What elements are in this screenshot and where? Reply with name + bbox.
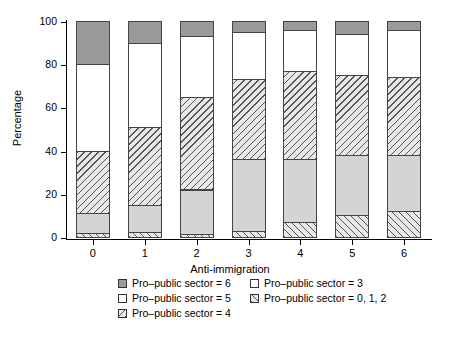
- legend-row: Pro–public sector = 4: [118, 306, 378, 321]
- legend-item[interactable]: Pro–public sector = 0, 1, 2: [250, 293, 378, 304]
- bar-segment: [232, 159, 266, 231]
- bar-1: [128, 22, 162, 238]
- bar-segment: [335, 34, 369, 76]
- bar-segment: [76, 64, 110, 151]
- bar-segment: [232, 21, 266, 33]
- bar-segment: [180, 21, 214, 37]
- bar-segment: [180, 36, 214, 97]
- x-axis-tick-label: 2: [182, 247, 212, 259]
- chart-legend: Pro–public sector = 6Pro–public sector =…: [118, 276, 378, 321]
- bar-segment: [76, 213, 110, 233]
- bars-layer: [67, 22, 430, 238]
- legend-swatch-icon: [118, 279, 127, 288]
- bar-segment: [128, 43, 162, 128]
- x-axis-title: Anti-immigration: [0, 263, 460, 275]
- x-axis-tick-label: 6: [389, 247, 419, 259]
- bar-segment: [387, 155, 421, 212]
- bar-segment: [232, 231, 266, 238]
- legend-row: Pro–public sector = 5Pro–public sector =…: [118, 291, 378, 306]
- y-axis-title: Percentage: [11, 28, 23, 208]
- bar-segment: [232, 79, 266, 160]
- bar-segment: [283, 30, 317, 72]
- x-axis-tick: [93, 240, 94, 245]
- bar-3: [232, 22, 266, 238]
- y-axis-tick-label: 80: [31, 59, 57, 69]
- x-axis-tick: [197, 240, 198, 245]
- legend-label: Pro–public sector = 5: [132, 293, 231, 304]
- bar-segment: [283, 159, 317, 223]
- bar-segment: [128, 205, 162, 233]
- y-axis-tick: [61, 65, 66, 66]
- bar-segment: [128, 21, 162, 44]
- legend-label: Pro–public sector = 4: [132, 308, 231, 319]
- legend-label: Pro–public sector = 6: [132, 278, 231, 289]
- x-axis-tick-label: 4: [285, 247, 315, 259]
- chart-container: 020406080100 0123456 Percentage Anti-imm…: [0, 0, 460, 343]
- legend-swatch-icon: [250, 279, 259, 288]
- x-axis-tick: [145, 240, 146, 245]
- y-axis-tick-label: 20: [31, 189, 57, 199]
- y-axis-tick: [61, 22, 66, 23]
- x-axis-tick: [300, 240, 301, 245]
- x-axis-tick: [249, 240, 250, 245]
- legend-item[interactable]: Pro–public sector = 3: [250, 278, 378, 289]
- y-axis-tick-label: 0: [31, 232, 57, 242]
- bar-segment: [283, 71, 317, 161]
- legend-label: Pro–public sector = 0, 1, 2: [264, 293, 386, 304]
- bar-segment: [232, 32, 266, 81]
- y-axis-tick: [61, 108, 66, 109]
- bar-segment: [76, 151, 110, 215]
- x-axis-tick-label: 3: [234, 247, 264, 259]
- bar-segment: [387, 21, 421, 31]
- legend-swatch-icon: [118, 309, 127, 318]
- bar-segment: [76, 21, 110, 65]
- bar-5: [335, 22, 369, 238]
- bar-segment: [180, 97, 214, 191]
- bar-segment: [387, 211, 421, 238]
- legend-item[interactable]: Pro–public sector = 4: [118, 308, 250, 319]
- bar-segment: [335, 155, 369, 216]
- bar-segment: [335, 215, 369, 238]
- bar-4: [283, 22, 317, 238]
- x-axis-tick-label: 0: [78, 247, 108, 259]
- legend-item[interactable]: Pro–public sector = 5: [118, 293, 250, 304]
- bar-segment: [283, 222, 317, 238]
- y-axis-tick: [61, 238, 66, 239]
- y-axis-tick-label: 40: [31, 146, 57, 156]
- bar-6: [387, 22, 421, 238]
- bar-segment: [335, 21, 369, 35]
- x-axis-tick: [404, 240, 405, 245]
- x-axis-tick-label: 1: [130, 247, 160, 259]
- bar-segment: [387, 77, 421, 156]
- bar-segment: [128, 127, 162, 206]
- y-axis-tick: [61, 195, 66, 196]
- bar-2: [180, 22, 214, 238]
- y-axis-tick-label: 100: [31, 16, 57, 26]
- x-axis-tick: [352, 240, 353, 245]
- legend-row: Pro–public sector = 6Pro–public sector =…: [118, 276, 378, 291]
- y-axis-tick: [61, 152, 66, 153]
- legend-swatch-icon: [118, 294, 127, 303]
- bar-segment: [387, 30, 421, 79]
- bar-segment: [335, 75, 369, 156]
- x-axis-tick-label: 5: [337, 247, 367, 259]
- legend-label: Pro–public sector = 3: [264, 278, 363, 289]
- bar-0: [76, 22, 110, 238]
- bar-segment: [180, 190, 214, 235]
- y-axis-tick-label: 60: [31, 102, 57, 112]
- bar-segment: [283, 21, 317, 31]
- legend-item[interactable]: Pro–public sector = 6: [118, 278, 250, 289]
- legend-swatch-icon: [250, 294, 259, 303]
